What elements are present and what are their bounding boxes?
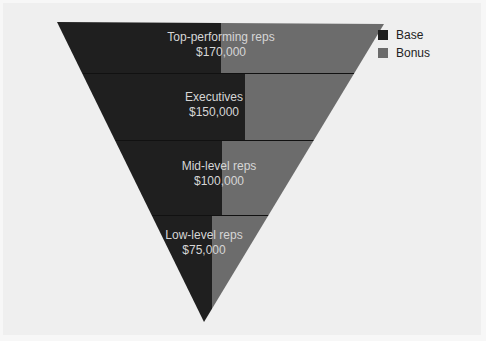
- label-exec-name: Executives: [185, 90, 243, 104]
- label-mid-value: $100,000: [194, 174, 244, 188]
- label-mid-name: Mid-level reps: [182, 159, 257, 173]
- label-low-name: Low-level reps: [165, 228, 242, 242]
- label-exec-value: $150,000: [189, 105, 239, 119]
- legend-swatch-bonus: [378, 48, 388, 58]
- legend-label-base: Base: [396, 28, 423, 42]
- segment-exec-bonus: [245, 74, 401, 140]
- legend-item-base: Base: [378, 26, 430, 44]
- segment-top-bonus: [221, 20, 401, 73]
- chart-legend: Base Bonus: [378, 26, 430, 62]
- segment-top-base: [40, 20, 221, 73]
- legend-item-bonus: Bonus: [378, 44, 430, 62]
- legend-swatch-base: [378, 30, 388, 40]
- segment-mid-bonus: [222, 141, 401, 215]
- label-top-name: Top-performing reps: [167, 30, 274, 44]
- label-top-value: $170,000: [196, 45, 246, 59]
- legend-label-bonus: Bonus: [396, 46, 430, 60]
- label-low-value: $75,000: [182, 243, 226, 257]
